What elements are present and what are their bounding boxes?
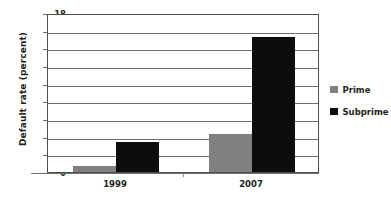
- x-tick-label-1999: 1999: [85, 179, 145, 189]
- axis-baseline: [31, 173, 319, 174]
- x-tick-label-2007: 2007: [221, 179, 281, 189]
- y-axis-title: Default rate (percent): [18, 19, 28, 159]
- legend: PrimeSubprime: [330, 82, 389, 126]
- legend-item-prime[interactable]: Prime: [330, 82, 389, 97]
- bar-prime-2007: [209, 134, 252, 172]
- gridline: [48, 33, 318, 34]
- bar-subprime-2007: [252, 37, 295, 172]
- x-tick-mark: [183, 173, 184, 177]
- bar-chart: Default rate (percent) 024681012141618 1…: [0, 0, 391, 203]
- legend-swatch-icon: [330, 86, 338, 94]
- plot-area: [47, 14, 319, 173]
- bar-prime-1999: [73, 166, 116, 172]
- legend-label: Subprime: [343, 107, 389, 117]
- legend-label: Prime: [343, 85, 371, 95]
- legend-item-subprime[interactable]: Subprime: [330, 104, 389, 119]
- bar-subprime-1999: [116, 142, 159, 172]
- legend-swatch-icon: [330, 108, 338, 116]
